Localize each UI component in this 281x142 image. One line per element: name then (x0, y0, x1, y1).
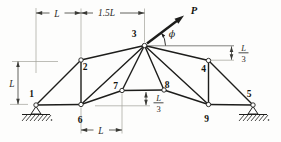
member-3-7 (122, 46, 145, 91)
angle-label: ϕ (169, 28, 176, 39)
dimension-span-2-3-label: 1.5L (98, 8, 115, 18)
member-9-5 (209, 105, 254, 106)
member-3-4 (145, 46, 209, 61)
dimension-height-L-label: L (8, 79, 14, 89)
joint-6 (79, 102, 83, 106)
dimension-span-1-2-arrow-left (36, 11, 42, 15)
member-1-2 (36, 60, 81, 105)
joint-label-4: 4 (201, 64, 206, 74)
dimension-depth-7-8-label-denominator: 3 (156, 104, 160, 114)
member-3-8 (145, 46, 165, 91)
joint-label-1: 1 (29, 89, 34, 99)
joint-label-3: 3 (132, 29, 137, 39)
joint-4 (206, 58, 210, 62)
joint-label-8: 8 (165, 80, 170, 90)
member-3-6 (81, 46, 145, 105)
joint-3 (142, 43, 146, 47)
member-8-9 (164, 90, 209, 105)
dimension-drop-3-4-label-numerator: L (240, 43, 246, 53)
dimension-drop-3-4-arrow-bottom (230, 54, 234, 60)
joint-label-7: 7 (113, 81, 118, 91)
joint-label-6: 6 (78, 115, 83, 125)
dimension-depth-7-8-arrow-top (144, 92, 148, 98)
member-6-7 (81, 91, 122, 105)
dimension-height-L-arrow-top (16, 62, 20, 68)
truss-figure: L1.5LLLL3L3123456789Pϕ (0, 0, 281, 142)
dimension-span-6-7-arrow-right (116, 128, 122, 132)
dimension-depth-7-8-arrow-bottom (144, 100, 148, 106)
dimension-span-6-7-arrow-left (81, 128, 87, 132)
member-3-9 (145, 46, 209, 105)
dimension-span-2-3-arrow-left (81, 11, 87, 15)
joint-5 (251, 103, 255, 107)
joint-1 (34, 103, 38, 107)
truss-diagram: L1.5LLLL3L3123456789Pϕ (0, 0, 281, 142)
joint-7 (120, 88, 124, 92)
support-dot-1 (51, 119, 53, 121)
dimension-height-L-arrow-bottom (16, 99, 20, 105)
dimension-drop-3-4-arrow-top (230, 46, 234, 52)
joint-label-5: 5 (247, 89, 252, 99)
dimension-span-1-2-label: L (53, 9, 59, 19)
dimension-drop-3-4-label-denominator: 3 (241, 54, 245, 64)
joint-label-9: 9 (204, 114, 209, 124)
dimension-depth-7-8-label-numerator: L (155, 93, 161, 103)
joint-9 (206, 102, 210, 106)
load-label: P (191, 5, 198, 16)
member-2-3 (81, 46, 145, 61)
dimension-span-6-7-label: L (97, 126, 103, 136)
member-1-6 (36, 105, 81, 106)
member-7-8 (122, 90, 164, 91)
support-dot-5 (268, 119, 270, 121)
joint-label-2: 2 (83, 62, 88, 72)
dimension-span-1-2-arrow-right (75, 11, 81, 15)
dimension-span-2-3-arrow-right (138, 11, 144, 15)
